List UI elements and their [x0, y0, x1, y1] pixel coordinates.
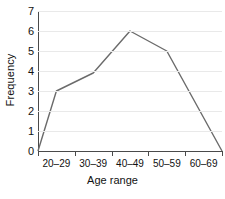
- y-tick-label: 4: [28, 66, 34, 77]
- gridline: [38, 111, 222, 112]
- x-tick-mark: [75, 151, 76, 156]
- y-axis-tick-labels: 01234567: [18, 0, 36, 160]
- gridline: [38, 71, 222, 72]
- gridline: [38, 31, 222, 32]
- y-axis-label: Frequency: [0, 0, 20, 160]
- frequency-polygon-chart: Frequency 01234567 20–2930–3940–4950–596…: [0, 0, 225, 199]
- x-tick-mark: [38, 151, 39, 156]
- x-axis-tick-labels: 20–2930–3940–4950–5960–69: [38, 157, 222, 171]
- y-tick-label: 5: [28, 46, 34, 57]
- x-tick-label: 30–39: [79, 157, 107, 171]
- x-tick-label: 50–59: [153, 157, 181, 171]
- frequency-line-series: [38, 11, 222, 151]
- x-tick-mark: [148, 151, 149, 156]
- y-tick-label: 7: [28, 6, 34, 17]
- gridline: [38, 91, 222, 92]
- gridline: [38, 51, 222, 52]
- x-tick-mark: [112, 151, 113, 156]
- x-tick-label: 20–29: [42, 157, 70, 171]
- x-tick-mark: [222, 151, 223, 156]
- x-tick-mark: [185, 151, 186, 156]
- x-tick-label: 60–69: [190, 157, 218, 171]
- y-tick-label: 1: [28, 126, 34, 137]
- gridline: [38, 131, 222, 132]
- y-tick-label: 0: [28, 146, 34, 157]
- gridline: [38, 151, 222, 152]
- y-tick-label: 6: [28, 26, 34, 37]
- gridline: [38, 11, 222, 12]
- y-tick-label: 3: [28, 86, 34, 97]
- x-tick-label: 40–49: [116, 157, 144, 171]
- x-axis-title: Age range: [0, 174, 225, 186]
- plot-area: [38, 11, 222, 151]
- y-tick-label: 2: [28, 106, 34, 117]
- y-axis-label-text: Frequency: [4, 54, 16, 107]
